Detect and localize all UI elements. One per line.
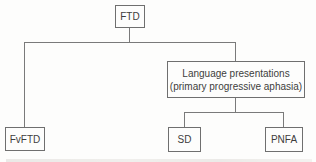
connector-to-fvftd: [24, 42, 25, 127]
node-fvftd: FvFTD: [5, 127, 45, 151]
node-ftd: FTD: [115, 5, 145, 28]
node-language-label-line2: (primary progressive aphasia): [170, 80, 302, 93]
scan-artifact: [6, 159, 312, 162]
connector-level2-horizontal: [184, 112, 284, 113]
connector-to-language: [235, 42, 236, 61]
node-language-label-line1: Language presentations: [182, 67, 289, 80]
node-pnfa-label: PNFA: [271, 133, 297, 146]
node-pnfa: PNFA: [265, 127, 303, 152]
node-ftd-label: FTD: [120, 10, 139, 23]
connector-ftd-down: [129, 28, 130, 43]
connector-to-pnfa: [283, 112, 284, 127]
connector-language-down: [235, 98, 236, 113]
connector-to-sd: [184, 112, 185, 127]
node-fvftd-label: FvFTD: [10, 133, 41, 146]
connector-level1-horizontal: [24, 42, 236, 43]
ftd-classification-diagram: FTD Language presentations (primary prog…: [0, 0, 316, 162]
node-sd: SD: [168, 127, 201, 152]
node-sd-label: SD: [178, 133, 192, 146]
node-language-presentations: Language presentations (primary progress…: [167, 61, 305, 98]
